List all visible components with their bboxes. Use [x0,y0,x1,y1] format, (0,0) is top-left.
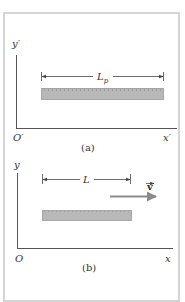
panel-a: y′ O′ x′ Lp (a) [11,38,177,153]
origin-label: O [15,253,23,264]
ruler-ticks [43,211,131,215]
panel-b: y O x L v (b) [13,159,173,273]
caption-b: (b) [82,262,96,273]
y-axis-label: y [13,159,20,170]
origin-prime-label: O′ [13,132,24,143]
proper-length-label: Lp [96,71,109,85]
x-axis-label: x [165,253,171,264]
ruler-ticks [42,89,163,93]
velocity-label: v [146,181,154,192]
contracted-length-label: L [82,174,90,185]
x-prime-axis-label: x′ [163,132,172,143]
y-prime-axis-label: y′ [11,38,21,49]
caption-a: (a) [81,142,95,153]
